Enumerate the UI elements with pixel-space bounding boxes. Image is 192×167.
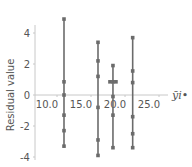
data-point bbox=[62, 17, 66, 21]
data-point bbox=[111, 64, 115, 68]
x-tick-label: 15.0 bbox=[70, 99, 92, 110]
y-tick-label: -2 bbox=[20, 121, 30, 132]
data-point bbox=[111, 95, 115, 99]
data-point bbox=[131, 69, 135, 73]
x-tick-label: 10.0 bbox=[36, 99, 58, 110]
data-point bbox=[131, 81, 135, 85]
series-group-4 bbox=[131, 36, 135, 150]
data-point bbox=[62, 129, 66, 133]
series-group-2 bbox=[96, 41, 100, 158]
data-point bbox=[62, 144, 66, 148]
data-point bbox=[114, 80, 118, 84]
y-axis-title: Residual value bbox=[5, 59, 16, 132]
data-point bbox=[96, 75, 100, 79]
y-tick-label: 0 bbox=[24, 90, 30, 101]
data-point bbox=[108, 80, 112, 84]
data-series bbox=[62, 17, 134, 157]
data-point bbox=[96, 106, 100, 110]
residual-plot: 420-2-410.015.020.025.0 Residual value ȳ… bbox=[0, 0, 192, 167]
x-axis-title: ȳi• bbox=[171, 89, 188, 102]
data-point bbox=[96, 41, 100, 45]
data-point bbox=[96, 59, 100, 63]
y-tick-label: 4 bbox=[24, 28, 30, 39]
data-point bbox=[111, 113, 115, 117]
data-point bbox=[131, 146, 135, 150]
y-tick-label: -4 bbox=[20, 152, 30, 163]
data-point bbox=[131, 115, 135, 119]
data-point bbox=[131, 132, 135, 136]
axes: 420-2-410.015.020.025.0 bbox=[20, 25, 168, 163]
data-point bbox=[131, 36, 135, 40]
data-point bbox=[111, 146, 115, 150]
data-point bbox=[96, 154, 100, 158]
x-tick-label: 20.0 bbox=[104, 99, 126, 110]
y-tick-label: 2 bbox=[24, 59, 30, 70]
x-tick-label: 25.0 bbox=[138, 99, 160, 110]
data-point bbox=[96, 138, 100, 142]
data-point bbox=[62, 93, 66, 97]
series-group-1 bbox=[62, 17, 66, 148]
data-point bbox=[62, 80, 66, 84]
data-point bbox=[62, 113, 66, 117]
